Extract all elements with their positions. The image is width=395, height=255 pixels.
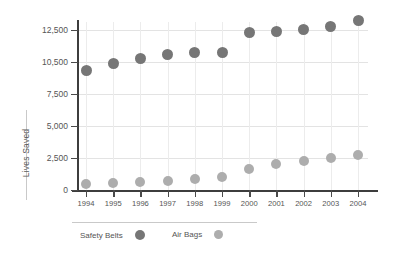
data-point-safety-belts[interactable] <box>271 26 282 37</box>
data-point-safety-belts[interactable] <box>298 24 309 35</box>
x-axis-tick-label: 2004 <box>343 199 373 208</box>
data-point-safety-belts[interactable] <box>353 15 364 26</box>
y-axis-tick <box>71 94 78 95</box>
legend-marker-safety-belts <box>135 230 145 240</box>
gridline-vertical <box>140 22 141 190</box>
x-axis-tick-label: 2003 <box>316 199 346 208</box>
y-axis-tick-label: 0 <box>22 185 68 195</box>
data-point-air-bags[interactable] <box>81 179 91 189</box>
gridline-vertical <box>168 22 169 190</box>
x-axis-tick <box>358 190 359 197</box>
data-point-air-bags[interactable] <box>217 172 227 182</box>
x-axis-tick-label: 1996 <box>125 199 155 208</box>
x-axis-tick <box>304 190 305 197</box>
legend-marker-air-bags <box>214 230 223 239</box>
data-point-air-bags[interactable] <box>135 177 145 187</box>
gridline-vertical <box>86 22 87 190</box>
y-axis-tick-label: 12,500 <box>22 25 68 35</box>
data-point-safety-belts[interactable] <box>189 47 200 58</box>
x-axis-tick-label: 1995 <box>98 199 128 208</box>
x-axis-tick-label: 2002 <box>289 199 319 208</box>
y-axis-tick <box>71 190 78 191</box>
data-point-air-bags[interactable] <box>244 164 254 174</box>
legend-item-air-bags[interactable]: Air Bags <box>172 230 223 239</box>
legend-item-safety-belts[interactable]: Safety Belts <box>80 230 145 240</box>
data-point-safety-belts[interactable] <box>162 49 173 60</box>
gridline-horizontal <box>78 94 368 95</box>
data-point-safety-belts[interactable] <box>81 65 92 76</box>
y-axis-tick-label: 2,500 <box>22 153 68 163</box>
data-point-air-bags[interactable] <box>163 176 173 186</box>
x-axis-tick <box>113 190 114 197</box>
gridline-vertical <box>331 22 332 190</box>
data-point-air-bags[interactable] <box>299 156 309 166</box>
data-point-safety-belts[interactable] <box>244 27 255 38</box>
chart-legend: Safety Belts Air Bags <box>72 222 257 246</box>
y-axis-tick <box>71 30 78 31</box>
data-point-safety-belts[interactable] <box>217 47 228 58</box>
data-point-air-bags[interactable] <box>190 174 200 184</box>
x-axis-tick <box>222 190 223 197</box>
legend-rule <box>72 222 257 223</box>
y-axis-tick-label: 5,000 <box>22 121 68 131</box>
x-axis-tick <box>331 190 332 197</box>
legend-label-safety-belts: Safety Belts <box>80 231 123 240</box>
gridline-vertical <box>113 22 114 190</box>
x-axis-tick-label: 1997 <box>153 199 183 208</box>
gridline-horizontal <box>78 62 368 63</box>
x-axis-tick-label: 1999 <box>207 199 237 208</box>
y-axis-tick <box>71 158 78 159</box>
x-axis-tick <box>276 190 277 197</box>
gridline-horizontal <box>78 158 368 159</box>
gridline-horizontal <box>78 30 368 31</box>
data-point-air-bags[interactable] <box>326 153 336 163</box>
x-axis-tick <box>140 190 141 197</box>
y-axis-line <box>77 20 79 192</box>
y-axis-tick-label: 10,500 <box>22 57 68 67</box>
plot-area <box>78 22 368 190</box>
data-point-safety-belts[interactable] <box>108 58 119 69</box>
x-axis-tick-label: 1998 <box>180 199 210 208</box>
gridline-horizontal <box>78 126 368 127</box>
x-axis-tick <box>86 190 87 197</box>
x-axis-tick-label: 1994 <box>71 199 101 208</box>
x-axis-tick-label: 2000 <box>234 199 264 208</box>
gridline-vertical <box>358 22 359 190</box>
lives-saved-scatter-chart: Lives Saved 02,5005,0007,50010,50012,500… <box>0 0 395 255</box>
x-axis-tick <box>195 190 196 197</box>
x-axis-tick <box>168 190 169 197</box>
y-axis-tick-label: 7,500 <box>22 89 68 99</box>
x-axis-tick-label: 2001 <box>261 199 291 208</box>
x-axis-tick <box>249 190 250 197</box>
y-axis-tick <box>71 62 78 63</box>
data-point-air-bags[interactable] <box>271 159 281 169</box>
y-axis-tick <box>71 126 78 127</box>
data-point-air-bags[interactable] <box>108 178 118 188</box>
legend-label-air-bags: Air Bags <box>172 230 202 239</box>
